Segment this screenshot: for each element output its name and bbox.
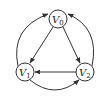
edge-v2-v0-curve (68, 14, 94, 66)
node-v2-subscript: 2 (86, 72, 90, 80)
node-v1-subscript: 1 (26, 72, 30, 80)
node-v0-subscript: 0 (59, 19, 63, 27)
node-v2: V2 (76, 63, 94, 81)
edge-v0-v2 (63, 27, 80, 63)
edge-v1-v0-curve (17, 14, 48, 66)
edge-v0-v1 (30, 27, 53, 63)
edge-v1-v2-curve (30, 80, 79, 90)
node-v1: V1 (16, 63, 34, 81)
directed-graph: V0 V1 V2 (0, 0, 108, 104)
node-v0: V0 (49, 10, 67, 28)
